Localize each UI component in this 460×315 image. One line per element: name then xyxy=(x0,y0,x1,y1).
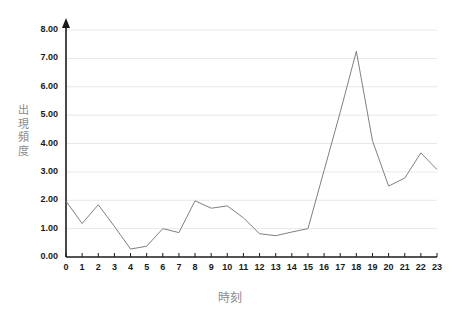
x-tick-label-6: 6 xyxy=(155,262,171,272)
x-tick-label-9: 9 xyxy=(203,262,219,272)
x-axis-title: 時刻 xyxy=(0,288,460,305)
x-tick-label-13: 13 xyxy=(268,262,284,272)
data-series-line xyxy=(66,51,437,249)
x-tick-label-0: 0 xyxy=(58,262,74,272)
y-axis-title-char: 出 xyxy=(14,104,32,118)
x-tick-label-8: 8 xyxy=(187,262,203,272)
y-tick-label-2.00: 2.00 xyxy=(24,194,58,204)
x-tick-label-14: 14 xyxy=(284,262,300,272)
y-tick-label-1.00: 1.00 xyxy=(24,223,58,233)
x-tick-label-12: 12 xyxy=(252,262,268,272)
x-tick-label-17: 17 xyxy=(332,262,348,272)
x-tick-label-2: 2 xyxy=(90,262,106,272)
x-tick-label-7: 7 xyxy=(171,262,187,272)
chart-figure: 0.001.002.003.004.005.006.007.008.00 012… xyxy=(0,0,460,315)
frequency-line xyxy=(66,51,437,249)
x-tick-label-3: 3 xyxy=(106,262,122,272)
x-tick-label-21: 21 xyxy=(397,262,413,272)
y-axis-arrow-icon xyxy=(62,18,70,28)
x-tick-label-4: 4 xyxy=(123,262,139,272)
x-tick-label-5: 5 xyxy=(139,262,155,272)
y-axis-title-char: 頻 xyxy=(14,131,32,145)
gridlines-group xyxy=(66,30,437,229)
x-tick-label-23: 23 xyxy=(429,262,445,272)
y-axis-title-char: 現 xyxy=(14,118,32,132)
x-tick-label-10: 10 xyxy=(219,262,235,272)
x-tick-label-18: 18 xyxy=(348,262,364,272)
x-tick-label-20: 20 xyxy=(381,262,397,272)
y-tick-label-0.00: 0.00 xyxy=(24,251,58,261)
y-axis-title: 出現頻度 xyxy=(14,104,32,158)
x-tick-label-16: 16 xyxy=(316,262,332,272)
y-tick-label-3.00: 3.00 xyxy=(24,166,58,176)
y-tick-label-7.00: 7.00 xyxy=(24,52,58,62)
x-tick-label-15: 15 xyxy=(300,262,316,272)
x-tick-label-1: 1 xyxy=(74,262,90,272)
axes-group xyxy=(62,18,437,257)
y-tick-label-6.00: 6.00 xyxy=(24,81,58,91)
x-tick-label-22: 22 xyxy=(413,262,429,272)
y-axis-title-char: 度 xyxy=(14,145,32,159)
x-tick-label-11: 11 xyxy=(235,262,251,272)
x-tick-label-19: 19 xyxy=(364,262,380,272)
y-tick-label-8.00: 8.00 xyxy=(24,24,58,34)
